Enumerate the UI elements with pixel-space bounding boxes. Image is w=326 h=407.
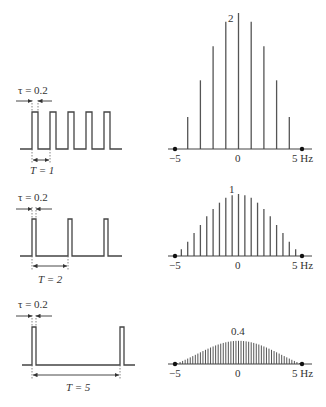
axis-right-label: 5 Hz bbox=[292, 259, 313, 271]
peak-label: 1 bbox=[229, 183, 235, 195]
axis-center-label: 0 bbox=[235, 152, 241, 164]
time-domain-T2: τ = 0.2 T = 2 bbox=[16, 191, 122, 285]
time-domain-T5: τ = 0.2 T = 5 bbox=[16, 298, 135, 393]
spectrum-T1: −5 0 5 Hz 2 bbox=[168, 12, 313, 164]
spectrum-T5: −5 0 5 Hz 0.4 bbox=[168, 325, 313, 379]
tau-label: τ = 0.2 bbox=[18, 84, 48, 96]
period-label: T = 5 bbox=[66, 381, 91, 393]
axis-left-label: −5 bbox=[169, 152, 181, 164]
peak-label: 2 bbox=[228, 12, 234, 24]
period-label: T = 1 bbox=[30, 164, 54, 176]
axis-left-label: −5 bbox=[169, 367, 181, 379]
tau-label: τ = 0.2 bbox=[18, 298, 48, 310]
axis-right-label: 5 Hz bbox=[292, 152, 313, 164]
axis-right-label: 5 Hz bbox=[292, 367, 313, 379]
pulse-train-spectra-figure: τ = 0.2 T = 1 −5 0 5 Hz 2 τ = 0.2 T = 2 … bbox=[0, 0, 326, 407]
pulse-train-waveform bbox=[22, 327, 135, 365]
spectrum-T2: −5 0 5 Hz 1 bbox=[168, 183, 313, 271]
pulse-train-waveform bbox=[20, 112, 122, 149]
period-label: T = 2 bbox=[38, 273, 63, 285]
axis-center-label: 0 bbox=[235, 367, 241, 379]
pulse-train-waveform bbox=[20, 219, 122, 256]
time-domain-T1: τ = 0.2 T = 1 bbox=[16, 84, 122, 176]
peak-label: 0.4 bbox=[231, 325, 245, 337]
tau-label: τ = 0.2 bbox=[18, 191, 48, 203]
axis-center-label: 0 bbox=[235, 259, 241, 271]
axis-left-label: −5 bbox=[169, 259, 181, 271]
